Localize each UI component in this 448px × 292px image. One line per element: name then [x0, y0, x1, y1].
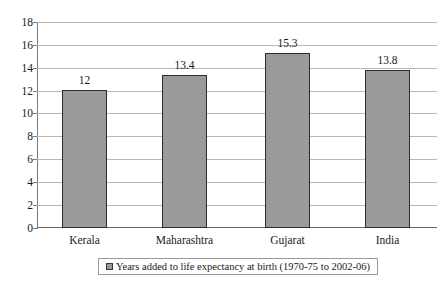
y-tick-label: 8 — [3, 131, 33, 143]
bar-kerala[interactable] — [62, 90, 107, 228]
y-tick-label: 4 — [3, 177, 33, 189]
y-tick-label: 10 — [3, 108, 33, 120]
legend-label: Years added to life expectancy at birth … — [116, 261, 370, 273]
bar-value-label: 13.4 — [162, 59, 207, 71]
y-tick-label: 6 — [3, 154, 33, 166]
plot-area: 12 13.4 15.3 13.8 — [37, 22, 437, 228]
gridline — [37, 68, 437, 69]
x-label-maharashtra: Maharashtra — [142, 233, 227, 247]
y-tick-label: 16 — [3, 40, 33, 52]
y-tick-label: 14 — [3, 63, 33, 75]
x-axis-category-labels: Kerala Maharashtra Gujarat India — [37, 233, 437, 251]
legend: Years added to life expectancy at birth … — [98, 258, 378, 275]
bar-chart: 18 16 14 12 10 8 6 4 2 0 — [0, 0, 448, 292]
y-tick-label: 18 — [3, 17, 33, 29]
bar-value-label: 13.8 — [365, 54, 410, 66]
x-label-kerala: Kerala — [42, 233, 127, 247]
x-label-india: India — [345, 233, 430, 247]
bar-gujarat[interactable] — [265, 53, 310, 228]
bar-value-label: 15.3 — [265, 37, 310, 49]
y-tick-mark — [33, 228, 37, 229]
y-tick-label: 12 — [3, 86, 33, 98]
y-axis-tick-labels: 18 16 14 12 10 8 6 4 2 0 — [0, 0, 33, 292]
gridline — [37, 22, 437, 23]
gridline — [37, 45, 437, 46]
x-label-gujarat: Gujarat — [245, 233, 330, 247]
y-tick-label: 2 — [3, 200, 33, 212]
bar-maharashtra[interactable] — [162, 75, 207, 228]
y-tick-label: 0 — [3, 223, 33, 235]
bar-value-label: 12 — [62, 74, 107, 86]
bar-india[interactable] — [365, 70, 410, 228]
legend-swatch-icon — [106, 263, 113, 270]
